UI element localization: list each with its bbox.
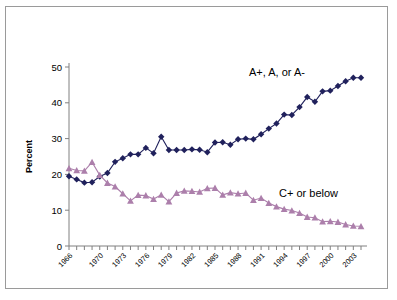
data-point xyxy=(227,141,233,147)
data-point xyxy=(350,75,356,81)
y-axis-tick-label: 20 xyxy=(51,169,62,180)
x-axis-tick-label: 1985 xyxy=(202,251,220,269)
y-axis-tick-label: 50 xyxy=(51,62,62,73)
data-point xyxy=(158,191,165,197)
x-axis-tick-label: 2000 xyxy=(318,251,336,269)
x-axis-tick-label: 1994 xyxy=(271,251,289,269)
data-point xyxy=(243,135,249,141)
x-axis-tick-label: 2003 xyxy=(341,251,359,269)
x-axis-tick-label: 1991 xyxy=(248,251,266,269)
x-axis-tick-label: 1979 xyxy=(156,251,174,269)
series-line xyxy=(69,78,361,183)
data-point xyxy=(327,87,333,93)
series-label-a-grades: A+, A, or A- xyxy=(249,66,305,78)
x-axis-tick-label: 1970 xyxy=(87,251,105,269)
data-point xyxy=(258,195,265,201)
x-axis-tick-label: 1966 xyxy=(56,251,74,269)
data-point xyxy=(235,136,241,142)
x-axis-tick-label: 1982 xyxy=(179,251,197,269)
data-point xyxy=(120,155,126,161)
data-point xyxy=(127,151,133,157)
data-point xyxy=(189,146,195,152)
data-point xyxy=(66,165,73,171)
figure-frame: 01020304050Percent1966197019731976197919… xyxy=(5,6,388,289)
data-point xyxy=(273,203,280,209)
data-point xyxy=(81,179,87,185)
data-point xyxy=(158,134,164,140)
data-point xyxy=(73,176,79,182)
y-axis-tick-label: 0 xyxy=(57,241,62,252)
data-point xyxy=(112,159,118,165)
data-point xyxy=(358,75,364,81)
data-point xyxy=(265,200,272,206)
y-axis-tick-label: 30 xyxy=(51,133,62,144)
line-chart: 01020304050Percent1966197019731976197919… xyxy=(6,7,389,290)
x-axis-tick-label: 1997 xyxy=(294,251,312,269)
data-point xyxy=(89,159,96,165)
data-point xyxy=(219,139,225,145)
data-point xyxy=(181,147,187,153)
data-point xyxy=(112,183,119,189)
data-point xyxy=(342,78,348,84)
x-axis-tick-label: 1973 xyxy=(110,251,128,269)
data-point xyxy=(150,150,156,156)
series-label-c-grades: C+ or below xyxy=(279,187,338,199)
data-point xyxy=(227,189,234,195)
y-axis-title: Percent xyxy=(24,140,34,173)
y-axis-tick-label: 40 xyxy=(51,97,62,108)
data-point xyxy=(104,170,110,176)
chart-canvas: 01020304050Percent1966197019731976197919… xyxy=(6,7,389,290)
x-axis-tick-label: 1988 xyxy=(225,251,243,269)
y-axis-tick-label: 10 xyxy=(51,205,62,216)
data-point xyxy=(196,146,202,152)
series-a-grades xyxy=(66,75,364,186)
data-point xyxy=(166,147,172,153)
data-point xyxy=(335,83,341,89)
data-point xyxy=(150,196,157,202)
x-axis-tick-label: 1976 xyxy=(133,251,151,269)
data-point xyxy=(250,136,256,142)
data-point xyxy=(173,147,179,153)
